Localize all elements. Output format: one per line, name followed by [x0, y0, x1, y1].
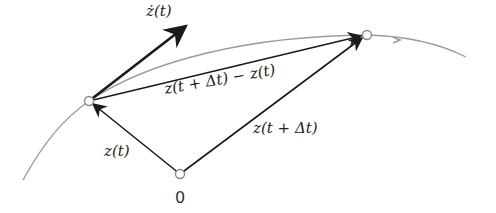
point-origin — [176, 170, 185, 179]
trajectory-curve — [23, 35, 466, 180]
label-derivative: ż(t) — [146, 2, 172, 20]
label-z-t: z(t) — [104, 142, 130, 160]
label-origin: 0 — [175, 188, 185, 207]
vector-z-t — [93, 104, 180, 174]
vector-z-t-dt — [180, 38, 362, 174]
diagram-canvas — [0, 0, 496, 213]
point-z-t — [85, 97, 94, 106]
label-z-t-dt: z(t + Δt) — [253, 119, 318, 137]
point-z-t-dt — [363, 31, 372, 40]
